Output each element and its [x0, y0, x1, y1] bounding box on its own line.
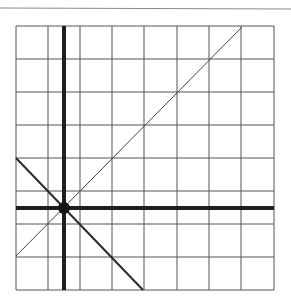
ascending-diagonal [16, 27, 242, 256]
grid-horizontal-lines [16, 26, 274, 290]
origin-point [58, 202, 70, 214]
top-rule [0, 8, 291, 9]
diagram-canvas [0, 0, 291, 305]
